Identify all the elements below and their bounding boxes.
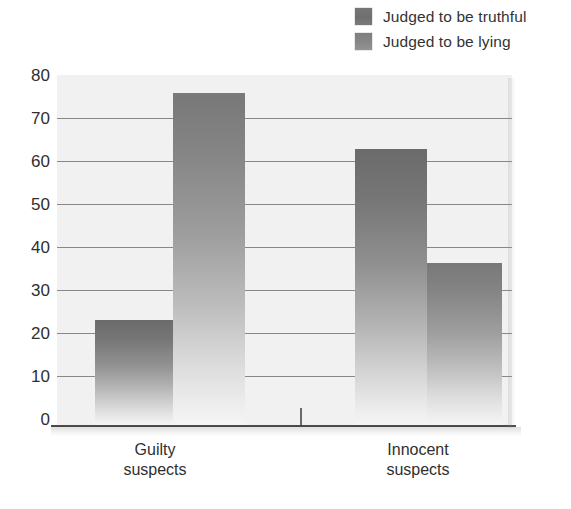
x-category-label-innocent-line1: Innocent [358, 440, 478, 460]
y-tick-label-80: 80 [6, 67, 50, 84]
x-category-label-guilty: Guilty suspects [95, 440, 215, 480]
legend-swatch-lying-icon [355, 33, 372, 50]
x-category-label-guilty-line2: suspects [95, 460, 215, 480]
y-tick-label-0: 0 [6, 411, 50, 428]
x-axis-group-separator-tick [300, 408, 302, 425]
legend-item-truthful: Judged to be truthful [355, 6, 526, 27]
gridline-40 [57, 247, 512, 248]
bar-guilty-truthful [95, 320, 173, 425]
y-tick-label-40: 40 [6, 239, 50, 256]
legend-item-lying: Judged to be lying [355, 31, 526, 52]
y-tick-label-20: 20 [6, 325, 50, 342]
figure-shadow [51, 427, 521, 436]
chart-legend: Judged to be truthful Judged to be lying [355, 6, 526, 52]
bar-guilty-lying [173, 93, 245, 425]
y-tick-label-70: 70 [6, 110, 50, 127]
gridline-70 [57, 118, 512, 119]
bar-innocent-lying [427, 263, 502, 425]
x-category-label-innocent-line2: suspects [358, 460, 478, 480]
bar-innocent-truthful [355, 149, 427, 425]
y-axis: 80 70 60 50 40 30 20 10 0 [0, 0, 50, 509]
gridline-60 [57, 161, 512, 162]
gridline-50 [57, 204, 512, 205]
legend-swatch-truthful-icon [355, 8, 372, 25]
bar-chart-figure: Judged to be truthful Judged to be lying… [0, 0, 571, 509]
plot-area [57, 75, 512, 425]
y-tick-label-60: 60 [6, 153, 50, 170]
figure-shadow-right [508, 78, 516, 428]
legend-label-truthful: Judged to be truthful [383, 8, 526, 25]
y-tick-label-30: 30 [6, 282, 50, 299]
y-tick-label-50: 50 [6, 196, 50, 213]
y-tick-label-10: 10 [6, 368, 50, 385]
legend-label-lying: Judged to be lying [383, 33, 511, 50]
x-category-label-guilty-line1: Guilty [95, 440, 215, 460]
x-category-label-innocent: Innocent suspects [358, 440, 478, 480]
